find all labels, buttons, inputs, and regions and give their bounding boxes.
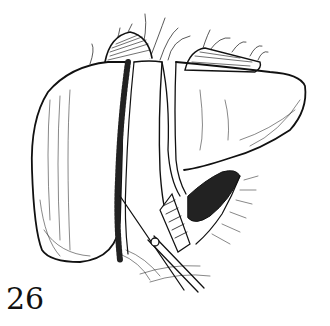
- liver-illustration: 26: [0, 0, 330, 326]
- liver-left-lobe: [176, 62, 305, 170]
- falciform-ligament: [162, 62, 180, 196]
- hilar-vessels: [188, 171, 240, 222]
- figure-number: 26: [6, 284, 44, 314]
- liver-drawing: [0, 0, 330, 326]
- liver-right-lobe: [32, 62, 128, 262]
